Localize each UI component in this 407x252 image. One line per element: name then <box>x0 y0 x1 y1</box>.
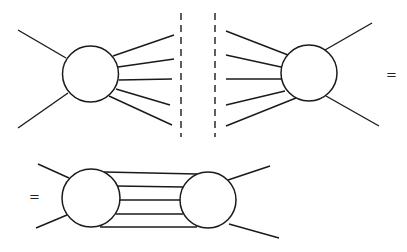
external-leg <box>38 164 69 178</box>
amplitude-blob <box>63 46 119 102</box>
glued-diagram <box>36 164 279 238</box>
unitarity-diagram <box>0 0 407 252</box>
cut-leg <box>226 55 281 67</box>
top-right-amplitude <box>226 23 379 126</box>
cut-leg <box>118 59 174 67</box>
external-leg <box>18 93 68 128</box>
left-blob <box>62 169 120 227</box>
top-left-amplitude <box>18 30 174 128</box>
cut-lines <box>181 13 215 137</box>
cut-leg <box>109 96 172 125</box>
external-leg <box>18 30 66 58</box>
external-leg <box>326 96 379 126</box>
cut-leg <box>119 79 172 80</box>
equals-sign-bottom: = <box>29 190 40 203</box>
conjugate-amplitude-blob <box>281 45 337 101</box>
external-leg <box>36 215 67 228</box>
cut-leg <box>113 35 174 56</box>
internal-line <box>116 186 183 187</box>
external-leg <box>325 23 372 50</box>
right-blob <box>180 172 236 228</box>
external-leg <box>228 166 270 180</box>
internal-line <box>104 172 197 174</box>
equals-sign-top: = <box>386 68 397 81</box>
external-leg <box>229 224 279 238</box>
cut-leg <box>226 31 288 55</box>
cut-leg <box>226 91 285 105</box>
